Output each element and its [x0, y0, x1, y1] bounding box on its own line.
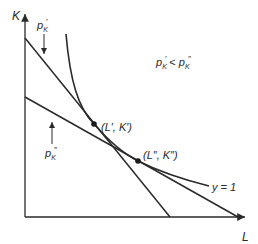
price-prime-label: pK′: [37, 20, 47, 33]
y-axis-label: K: [12, 10, 20, 22]
point-double-prime-label: (L″, K″): [143, 150, 178, 161]
point-prime-label: (L′, K′): [101, 122, 132, 133]
isoquant-label: y = 1: [212, 182, 236, 193]
price-inequality: pK′ < pK″: [156, 57, 190, 70]
tangent-point-double-prime: [135, 158, 141, 164]
tangent-point-prime: [91, 121, 97, 127]
price-double-prime-label: pK″: [45, 148, 57, 161]
x-axis-label: L: [242, 231, 249, 243]
